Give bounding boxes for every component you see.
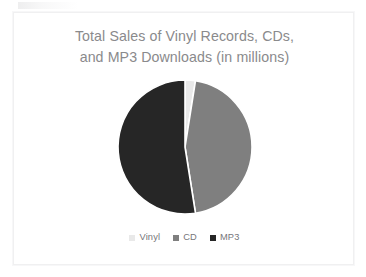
pie-slice-group — [118, 80, 252, 214]
pie-slice-mp3[interactable] — [118, 80, 195, 214]
chart-legend: Vinyl CD MP3 — [14, 232, 355, 243]
legend-item-vinyl[interactable]: Vinyl — [129, 232, 160, 243]
legend-label-vinyl: Vinyl — [139, 232, 160, 243]
pie-slice-cd[interactable] — [185, 81, 252, 213]
chart-card: Total Sales of Vinyl Records, CDs, and M… — [13, 12, 354, 265]
pie-chart-svg — [111, 73, 259, 221]
pie-chart-plot-area — [14, 73, 355, 221]
legend-swatch-icon-mp3 — [210, 235, 216, 241]
legend-label-cd: CD — [183, 232, 197, 243]
legend-swatch-icon-cd — [173, 235, 179, 241]
legend-swatch-icon-vinyl — [129, 235, 135, 241]
legend-item-cd[interactable]: CD — [173, 232, 197, 243]
chart-title: Total Sales of Vinyl Records, CDs, and M… — [14, 26, 355, 68]
legend-item-mp3[interactable]: MP3 — [210, 232, 240, 243]
page-scan-artifact — [18, 2, 78, 9]
legend-label-mp3: MP3 — [220, 232, 240, 243]
